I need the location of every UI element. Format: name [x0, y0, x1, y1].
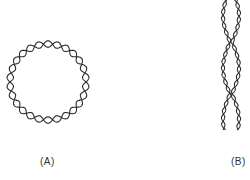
- panel-a: (A): [0, 0, 125, 180]
- relaxed-circular-dna-figure: [0, 0, 125, 180]
- supercoiled-dna-figure: [125, 0, 250, 180]
- panel-b: (B): [125, 0, 250, 180]
- panel-b-label: (B): [231, 156, 246, 167]
- panel-a-label: (A): [40, 156, 55, 167]
